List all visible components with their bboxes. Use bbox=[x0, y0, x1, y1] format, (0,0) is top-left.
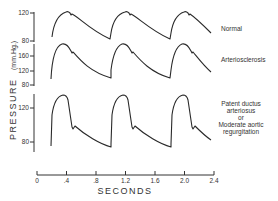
svg-text:0: 0 bbox=[35, 177, 39, 184]
y-axis-label: PRESSURE bbox=[8, 78, 18, 140]
svg-text:1.2: 1.2 bbox=[121, 177, 130, 184]
curve-ductus-regurgitation bbox=[51, 95, 211, 147]
svg-text:2.0: 2.0 bbox=[180, 177, 189, 184]
pressure-waveform-chart: PRESSURE (mm.Hg.) 120 80 160 120 80 120 … bbox=[0, 0, 278, 201]
svg-text:160: 160 bbox=[18, 52, 29, 59]
svg-text:or: or bbox=[238, 114, 245, 121]
panel-arteriosclerosis-axis: 160 120 80 bbox=[18, 44, 34, 88]
curve-arteriosclerosis bbox=[51, 44, 211, 79]
svg-text:2.4: 2.4 bbox=[209, 177, 218, 184]
svg-text:regurgitation: regurgitation bbox=[223, 128, 260, 136]
svg-text:120: 120 bbox=[18, 104, 29, 111]
svg-text:80: 80 bbox=[22, 81, 30, 88]
curve-normal bbox=[52, 12, 211, 39]
svg-text:120: 120 bbox=[18, 9, 29, 16]
label-normal: Normal bbox=[221, 25, 243, 32]
svg-text:.8: .8 bbox=[93, 177, 99, 184]
svg-text:arteriosus: arteriosus bbox=[227, 107, 256, 114]
svg-text:120: 120 bbox=[18, 67, 29, 74]
x-axis-label: SECONDS bbox=[97, 186, 152, 196]
panel-ductus-axis: 120 80 bbox=[18, 94, 34, 152]
y-axis-unit: (mm.Hg.) bbox=[10, 41, 18, 70]
svg-text:80: 80 bbox=[22, 138, 30, 145]
svg-text:80: 80 bbox=[22, 37, 30, 44]
label-ductus-regurgitation: Patent ductus arteriosus or Moderate aor… bbox=[218, 100, 264, 136]
svg-text:1.6: 1.6 bbox=[150, 177, 159, 184]
x-axis: 0 .4 .8 1.2 1.6 2.0 2.4 SECONDS bbox=[35, 171, 219, 196]
label-arteriosclerosis: Arteriosclerosis bbox=[221, 56, 266, 63]
panel-normal-axis: 120 80 bbox=[18, 9, 34, 44]
svg-text:.4: .4 bbox=[64, 177, 70, 184]
svg-text:Moderate aortic: Moderate aortic bbox=[218, 121, 264, 128]
svg-text:Patent ductus: Patent ductus bbox=[221, 100, 261, 107]
